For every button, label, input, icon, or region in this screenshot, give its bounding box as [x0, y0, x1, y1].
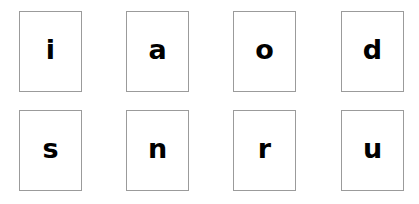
letter-card[interactable]: u — [341, 110, 404, 191]
card-letter: n — [148, 135, 167, 162]
letter-card[interactable]: o — [233, 11, 296, 92]
card-letter: u — [363, 135, 382, 162]
card-letter: d — [363, 36, 382, 63]
card-letter: a — [148, 36, 166, 63]
letter-card[interactable]: r — [233, 110, 296, 191]
card-letter: s — [42, 135, 58, 162]
letter-card[interactable]: i — [19, 11, 82, 92]
letter-card-grid: i a o d s n r u — [0, 0, 419, 204]
letter-card[interactable]: n — [126, 110, 189, 191]
letter-card-canvas: i a o d s n r u — [0, 0, 419, 204]
letter-card[interactable]: a — [126, 11, 189, 92]
card-letter: o — [255, 36, 274, 63]
card-letter: r — [258, 135, 271, 162]
card-letter: i — [46, 36, 55, 63]
letter-card[interactable]: s — [19, 110, 82, 191]
letter-card[interactable]: d — [341, 11, 404, 92]
